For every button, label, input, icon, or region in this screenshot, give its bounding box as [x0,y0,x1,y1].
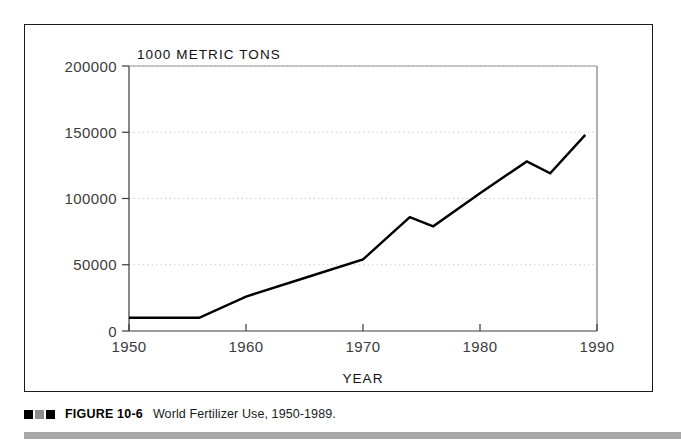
chart-plot-area: 050000100000150000200000 195019601970198… [25,25,654,393]
figure-caption-text: World Fertilizer Use, 1950-1989. [153,407,336,421]
y-tick-label-1: 50000 [73,256,117,273]
x-axis-tick-labels: 19501960197019801990 [112,338,615,355]
x-tick-label-0: 1950 [112,338,147,355]
x-tick-label-3: 1980 [463,338,498,355]
figure-caption-row: FIGURE 10-6 World Fertilizer Use, 1950-1… [24,403,336,425]
y-axis-tick-labels: 050000100000150000200000 [65,58,117,340]
x-tick-label-2: 1970 [346,338,381,355]
caption-square-3-icon [46,410,55,419]
y-tick-label-0: 0 [108,323,117,340]
data-series-line [129,135,585,318]
y-tick-label-3: 150000 [65,124,117,141]
figure-number-label: FIGURE 10-6 [65,407,143,421]
x-tick-label-1: 1960 [229,338,264,355]
gridlines [129,66,597,265]
x-axis-title: YEAR [342,371,383,386]
x-axis-ticks [129,324,597,331]
x-tick-label-4: 1990 [580,338,615,355]
figure-frame: 050000100000150000200000 195019601970198… [24,24,653,392]
y-tick-label-2: 100000 [65,190,117,207]
y-axis-unit-label: 1000 METRIC TONS [137,47,281,62]
caption-square-1-icon [24,410,33,419]
y-tick-label-4: 200000 [65,58,117,75]
bottom-rule-band [24,432,681,439]
caption-square-2-icon [35,410,44,419]
y-axis-ticks [122,66,129,331]
line-chart: 050000100000150000200000 195019601970198… [25,25,654,393]
